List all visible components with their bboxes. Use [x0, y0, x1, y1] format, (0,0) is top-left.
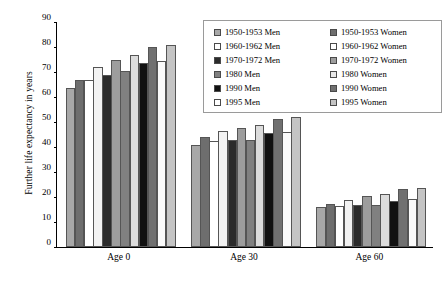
legend-item[interactable]: 1990 Men: [214, 81, 324, 95]
bar: [408, 199, 418, 247]
legend-item[interactable]: 1980 Women: [330, 67, 447, 81]
bar: [335, 206, 345, 247]
legend-item-label: 1950-1953 Women: [341, 28, 407, 37]
legend-item[interactable]: 1995 Women: [330, 95, 447, 109]
legend-item-label: 1980 Men: [225, 70, 260, 79]
legend-item-label: 1960-1962 Women: [341, 42, 407, 51]
legend-item-label: 1970-1972 Men: [225, 56, 280, 65]
bar: [157, 61, 167, 247]
bar: [200, 137, 210, 247]
bar: [237, 128, 247, 248]
bar: [84, 80, 94, 248]
legend-swatch-icon: [330, 85, 337, 92]
bar: [218, 131, 228, 247]
legend-item-label: 1960-1962 Men: [225, 42, 280, 51]
legend-item[interactable]: 1995 Men: [214, 95, 324, 109]
bar: [111, 60, 121, 248]
bar: [273, 119, 283, 247]
bar: [326, 204, 336, 248]
bar: [353, 205, 363, 248]
legend-swatch-icon: [214, 57, 221, 64]
bar: [371, 205, 381, 248]
legend-item[interactable]: 1950-1953 Men: [214, 25, 324, 39]
legend-swatch-icon: [214, 71, 221, 78]
legend-item-label: 1995 Men: [225, 98, 260, 107]
legend-swatch-icon: [214, 85, 221, 92]
bar: [228, 140, 238, 247]
bar: [93, 67, 103, 247]
legend-swatch-icon: [214, 43, 221, 50]
bar: [255, 125, 265, 248]
bar: [291, 117, 301, 247]
x-axis-label-age-0: Age 0: [56, 252, 181, 262]
legend-item-label: 1950-1953 Men: [225, 28, 280, 37]
bar: [362, 196, 372, 247]
legend: 1950-1953 Men1950-1953 Women1960-1962 Me…: [203, 20, 442, 113]
bar: [209, 141, 219, 247]
bar: [246, 140, 256, 248]
legend-item[interactable]: 1980 Men: [214, 67, 324, 81]
bar: [148, 47, 158, 247]
bar: [316, 207, 326, 247]
bar: [344, 200, 354, 248]
legend-swatch-icon: [330, 57, 337, 64]
legend-item[interactable]: 1990 Women: [330, 81, 447, 95]
legend-item[interactable]: 1960-1962 Men: [214, 39, 324, 53]
legend-swatch-icon: [330, 29, 337, 36]
legend-swatch-icon: [330, 43, 337, 50]
bar: [191, 145, 201, 248]
bar: [398, 189, 408, 247]
legend-item-label: 1970-1972 Women: [341, 56, 407, 65]
legend-item-label: 1990 Women: [341, 84, 387, 93]
legend-item[interactable]: 1970-1972 Men: [214, 53, 324, 67]
legend-item[interactable]: 1960-1962 Women: [330, 39, 447, 53]
bar: [75, 80, 85, 248]
bar: [380, 194, 390, 248]
bar: [120, 71, 130, 247]
bar: [264, 133, 274, 247]
y-axis-title: Further life expectancy in years: [24, 38, 34, 228]
bar: [389, 201, 399, 247]
bar-chart: Further life expectancy in years 0102030…: [0, 0, 447, 301]
legend-item[interactable]: 1950-1953 Women: [330, 25, 447, 39]
legend-item-label: 1995 Women: [341, 98, 387, 107]
bar: [166, 45, 176, 248]
bar: [130, 55, 140, 248]
bar: [417, 188, 427, 248]
bar: [66, 88, 76, 247]
bar: [102, 75, 112, 248]
legend-swatch-icon: [214, 29, 221, 36]
legend-swatch-icon: [214, 99, 221, 106]
x-axis-label-age-60: Age 60: [307, 252, 432, 262]
legend-item-label: 1980 Women: [341, 70, 387, 79]
legend-swatch-icon: [330, 71, 337, 78]
legend-item-label: 1990 Men: [225, 84, 260, 93]
bar: [282, 132, 292, 248]
bar: [139, 63, 149, 247]
x-axis-label-age-30: Age 30: [181, 252, 306, 262]
legend-item[interactable]: 1970-1972 Women: [330, 53, 447, 67]
legend-swatch-icon: [330, 99, 337, 106]
legend-grid: 1950-1953 Men1950-1953 Women1960-1962 Me…: [204, 25, 441, 109]
